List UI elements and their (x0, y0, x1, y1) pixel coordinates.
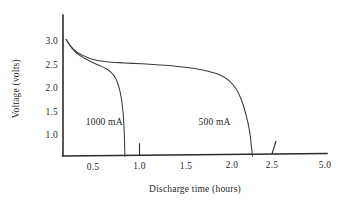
x-tick-label: 5.0 (312, 161, 338, 171)
x-axis-title: Discharge time (hours) (120, 185, 270, 195)
series-annotation-500-ma: 500 mA (199, 118, 231, 128)
chart-figure: Voltage (volts) Discharge time (hours) 3… (0, 0, 346, 214)
x-axis-line (63, 154, 327, 157)
tick-marks-group (140, 141, 277, 155)
axes-group (63, 15, 327, 156)
y-tick-label: 2.5 (36, 61, 58, 71)
discharge-curve-1000-ma (66, 40, 125, 157)
x-tick-label: 1.5 (173, 162, 199, 172)
x-tick-mark (272, 141, 276, 154)
x-tick-label: 2.5 (259, 161, 285, 171)
y-axis-title: Voltage (volts) (12, 41, 22, 137)
series-group (66, 40, 252, 157)
y-tick-label: 3.0 (36, 37, 58, 47)
y-tick-label: 1.5 (36, 108, 58, 118)
x-tick-label: 2.0 (219, 161, 245, 171)
y-tick-label: 2.0 (36, 84, 58, 94)
x-tick-label: 1.0 (127, 162, 153, 172)
x-tick-label: 0.5 (80, 163, 106, 173)
series-annotation-1000-ma: 1000 mA (86, 118, 123, 128)
y-tick-label: 1.0 (36, 131, 58, 141)
discharge-curve-500-ma (66, 40, 252, 157)
